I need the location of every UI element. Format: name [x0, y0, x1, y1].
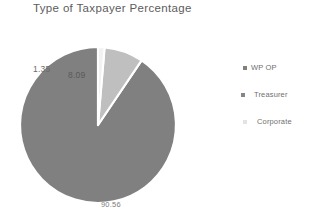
legend-swatch-treasurer	[241, 93, 245, 97]
legend-item-treasurer[interactable]: Treasurer	[240, 89, 314, 115]
legend-swatch-corporate	[243, 120, 247, 124]
legend-label-corporate: Corporate	[257, 116, 292, 127]
data-label-wp-op: 90.56	[101, 200, 121, 210]
pie-svg	[0, 24, 215, 217]
legend-item-wp-op[interactable]: WP OP	[240, 62, 314, 88]
data-label-treasurer: 8.09	[68, 70, 85, 80]
data-label-corporate: 1.35	[33, 64, 50, 74]
legend-label-treasurer: Treasurer	[254, 89, 288, 100]
pie-chart-figure: Type of Taxpayer Percentage 1.35 8.09 90…	[0, 0, 314, 217]
plot-area: 1.35 8.09 90.56	[0, 24, 215, 217]
chart-legend: WP OP Treasurer Corporate	[240, 62, 314, 142]
legend-label-wp-op: WP OP	[251, 62, 277, 73]
chart-title: Type of Taxpayer Percentage	[33, 1, 192, 16]
legend-swatch-wp-op	[243, 66, 247, 70]
legend-item-corporate[interactable]: Corporate	[240, 116, 314, 142]
